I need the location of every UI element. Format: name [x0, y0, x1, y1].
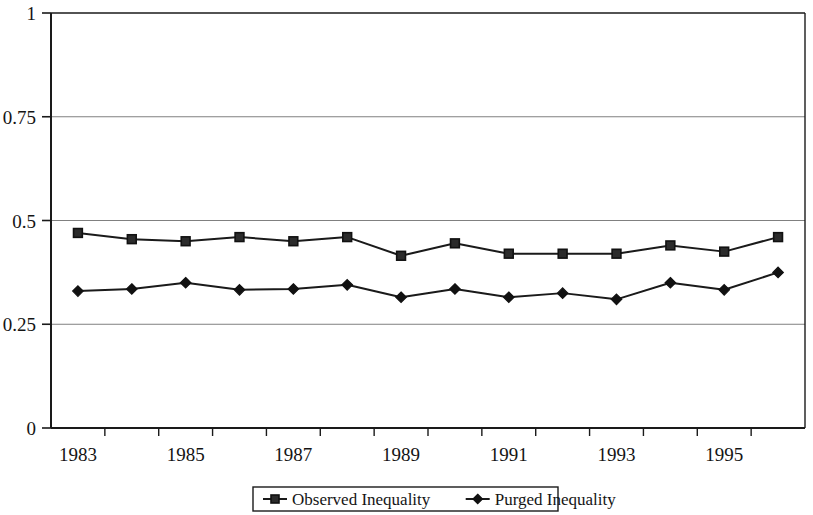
y-tick-label: 0.25 [3, 314, 36, 335]
data-point-square-marker [181, 237, 190, 246]
x-tick-label: 1989 [382, 444, 420, 465]
data-point-square-marker [451, 239, 460, 248]
data-point-square-marker [397, 251, 406, 260]
chart-container: 00.250.50.751 19831985198719891991199319… [0, 0, 813, 515]
legend-label: Observed Inequality [292, 490, 431, 509]
data-point-square-marker [289, 237, 298, 246]
x-tick-label: 1995 [705, 444, 743, 465]
data-point-square-marker [558, 249, 567, 258]
data-point-square-marker [74, 229, 83, 238]
data-point-square-marker [343, 233, 352, 242]
x-tick-label: 1987 [274, 444, 312, 465]
data-point-square-marker [127, 235, 136, 244]
data-point-square-marker [271, 495, 279, 503]
data-point-square-marker [235, 233, 244, 242]
x-tick-label: 1985 [167, 444, 205, 465]
chart-background [0, 0, 813, 515]
data-point-square-marker [774, 233, 783, 242]
data-point-square-marker [504, 249, 513, 258]
data-point-square-marker [612, 249, 621, 258]
x-tick-label: 1991 [490, 444, 528, 465]
legend-label: Purged Inequality [495, 490, 617, 509]
y-tick-label: 0 [27, 418, 37, 439]
chart-legend: Observed InequalityPurged Inequality [253, 487, 616, 511]
data-point-square-marker [720, 247, 729, 256]
x-tick-label: 1983 [59, 444, 97, 465]
inequality-line-chart: 00.250.50.751 19831985198719891991199319… [0, 0, 813, 515]
x-tick-label: 1993 [598, 444, 636, 465]
y-tick-label: 0.75 [3, 107, 36, 128]
y-tick-label: 1 [27, 3, 37, 24]
data-point-square-marker [666, 241, 675, 250]
y-tick-label: 0.5 [12, 211, 36, 232]
